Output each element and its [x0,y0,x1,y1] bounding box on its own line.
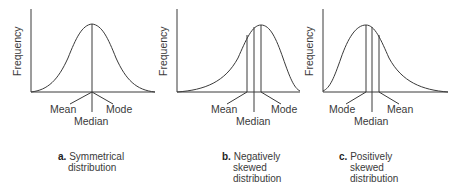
caption-line2: skewed [222,162,267,173]
label-mode: Mode [271,103,297,115]
caption-letter: a. [58,151,66,162]
panel-b-plot [177,9,300,112]
y-axis-label-a: Frequency [11,26,23,76]
caption-letter: b. [222,151,231,162]
caption-line1: Positively [350,151,392,162]
y-axis-label-c: Frequency [303,26,315,76]
label-mode: Mode [329,103,355,115]
y-axis-label-b: Frequency [157,26,169,76]
label-median: Median [236,115,271,127]
panel-c-plot [323,9,448,112]
positively-skewed-curve [323,25,448,92]
caption-letter: c. [339,151,347,162]
label-median: Median [74,115,109,127]
label-mean: Mean [50,103,76,115]
caption-line3: distribution [339,173,398,184]
negatively-skewed-curve [177,25,300,92]
caption-line2: distribution [58,162,116,173]
caption-line1: Symmetrical [69,151,124,162]
label-mode: Mode [106,103,132,115]
label-mean: Mean [211,103,237,115]
symmetrical-curve [31,24,155,92]
caption-line3: distribution [222,173,281,184]
label-mean: Mean [387,103,413,115]
panel-a-plot [31,9,155,112]
caption-b: b. Negatively skewed distribution [222,151,281,184]
caption-c: c. Positively skewed distribution [339,151,398,184]
label-median: Median [354,115,389,127]
caption-line1: Negatively [234,151,281,162]
caption-line2: skewed [339,162,384,173]
caption-a: a. Symmetrical distribution [58,151,124,173]
